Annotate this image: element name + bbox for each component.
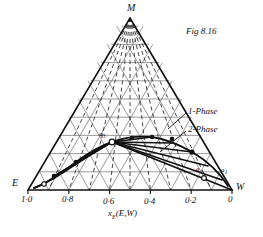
- axis-tick-0: 1·0: [21, 195, 32, 204]
- leader-2phase: [160, 131, 186, 152]
- axis-tick-1: 0·8: [62, 195, 73, 204]
- point-label-a3: a3: [99, 131, 106, 139]
- legend-label-2phase: 2-Phase: [188, 125, 218, 134]
- axis-tick-4: 0·2: [185, 196, 196, 205]
- point-label-a1-sub: 1: [225, 169, 228, 175]
- legend-label-1phase: 1-Phase: [188, 107, 218, 116]
- point-label-a1: a1: [221, 167, 228, 175]
- axis-tick-2: 0·6: [103, 197, 114, 206]
- vertex-label-e: E: [12, 178, 18, 188]
- axis-title-tail: (E,W): [116, 208, 137, 218]
- axis-tick-3: 0·4: [144, 197, 155, 206]
- axis-tick-5: 0: [228, 195, 233, 204]
- figure-caption: Fig 8.16: [186, 27, 217, 36]
- point-label-a: a: [196, 166, 200, 173]
- vertex-label-m: M: [127, 3, 135, 13]
- vertex-label-w: W: [236, 182, 244, 192]
- leader-1phase: [168, 113, 186, 129]
- axis-title: xE(E,W): [108, 209, 137, 220]
- figure-canvas: Fig 8.16 M E W 1-Phase 2-Phase 1·0 0·8 0…: [0, 0, 263, 237]
- ternary-diagram-svg: [0, 0, 263, 237]
- point-label-a3-sub: 3: [103, 133, 106, 139]
